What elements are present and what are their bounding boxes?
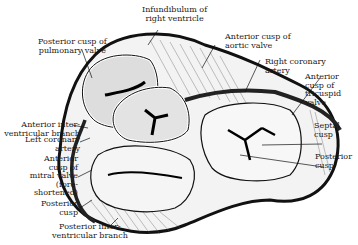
- label-anterior-cusp-tricuspid-valve: Anterior cusp of tricuspid valve: [305, 73, 341, 107]
- label-septal-cusp: Septal cusp: [314, 122, 340, 139]
- label-posterior-cusp-pulmonary-valve: Posterior cusp of pulmonary valve: [38, 38, 107, 55]
- label-posterior-interventricular-branch: Posterior inter- ventricular branch: [52, 223, 128, 240]
- label-anterior-cusp-mitral-valve: Anterior cusp of mitral valve (fore- sho…: [4, 155, 78, 198]
- label-posterior-cusp-tricuspid: Posterior cusp: [315, 153, 352, 170]
- label-infundibulum: Infundibulum of right ventricle: [142, 6, 207, 23]
- label-left-coronary-artery: Left coronary artery: [4, 136, 80, 153]
- label-anterior-cusp-aortic-valve: Anterior cusp of aortic valve: [225, 33, 291, 50]
- label-posterior-cusp-mitral: Posterior cusp: [4, 200, 78, 217]
